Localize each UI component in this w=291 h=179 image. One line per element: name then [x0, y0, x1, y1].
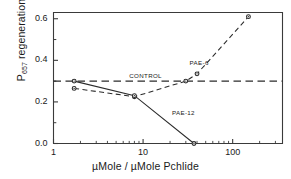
chart-figure: P657 regeneration µMole / µMole Pchlide … — [0, 0, 291, 179]
data-point-center — [185, 80, 186, 81]
data-point-center — [134, 95, 135, 96]
plot-frame — [54, 13, 283, 144]
data-point-center — [196, 73, 197, 74]
data-point-center — [193, 143, 194, 144]
plot-area — [0, 0, 291, 179]
series-line-pae-6 — [74, 17, 248, 97]
data-point-center — [73, 88, 74, 89]
data-point-center — [73, 80, 74, 81]
data-point-center — [248, 16, 249, 17]
